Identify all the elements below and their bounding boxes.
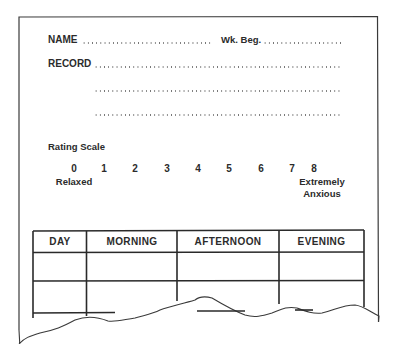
anxiety-record-form: NAME Wk. Beg. RECORD Rating Scale 0 1 2 … xyxy=(0,0,397,344)
cell-row2-evening[interactable] xyxy=(280,282,363,304)
rating-high-label-line-1: Extremely xyxy=(292,176,352,188)
column-header-evening: EVENING xyxy=(279,236,364,247)
column-header-afternoon: AFTERNOON xyxy=(177,236,279,247)
rating-value-4: 4 xyxy=(191,163,205,174)
rating-value-7: 7 xyxy=(285,163,299,174)
cell-row2-day[interactable] xyxy=(34,282,86,310)
rating-high-label-line-2: Anxious xyxy=(292,188,352,200)
rating-value-2: 2 xyxy=(128,163,142,174)
cell-row2-afternoon[interactable] xyxy=(178,282,278,300)
rating-value-6: 6 xyxy=(254,163,268,174)
record-field-line-2[interactable] xyxy=(94,90,341,92)
cell-row2-morning[interactable] xyxy=(88,282,176,306)
name-field[interactable] xyxy=(82,42,212,44)
rating-low-label: Relaxed xyxy=(50,176,98,188)
rating-value-3: 3 xyxy=(160,163,174,174)
cell-row1-morning[interactable] xyxy=(88,254,176,280)
cell-row1-afternoon[interactable] xyxy=(178,254,278,280)
week-beginning-field[interactable] xyxy=(263,42,341,44)
rating-value-5: 5 xyxy=(222,163,236,174)
rating-value-1: 1 xyxy=(97,163,111,174)
cell-row1-day[interactable] xyxy=(34,254,86,280)
record-field-line-1[interactable] xyxy=(94,66,341,68)
name-label: NAME xyxy=(48,34,77,45)
rating-value-8: 8 xyxy=(307,163,321,174)
column-header-day: DAY xyxy=(33,236,87,247)
week-beginning-label: Wk. Beg. xyxy=(221,34,261,45)
rating-scale-title: Rating Scale xyxy=(48,141,105,152)
record-field-line-3[interactable] xyxy=(94,114,341,116)
rating-value-0: 0 xyxy=(67,163,81,174)
record-label: RECORD xyxy=(48,58,91,69)
cell-row1-evening[interactable] xyxy=(280,254,363,280)
column-header-morning: MORNING xyxy=(87,236,177,247)
